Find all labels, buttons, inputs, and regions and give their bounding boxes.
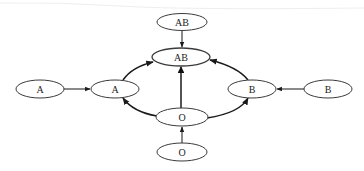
edge-b-inner-to-ab-center xyxy=(210,60,248,80)
node-a-inner: A xyxy=(91,80,139,98)
node-label: A xyxy=(36,84,44,95)
node-label: A xyxy=(111,84,119,95)
node-label: AB xyxy=(174,52,188,63)
node-label: O xyxy=(178,147,185,158)
node-a-outer: A xyxy=(16,80,64,98)
node-o-bottom: O xyxy=(157,143,207,161)
edge-o-center-to-b-inner xyxy=(207,98,248,118)
edge-o-center-to-a-inner xyxy=(123,98,157,116)
node-o-center: O xyxy=(156,108,208,126)
node-label: B xyxy=(249,84,256,95)
scan-artifact xyxy=(0,3,364,9)
node-b-inner: B xyxy=(228,80,276,98)
node-b-outer: B xyxy=(304,80,352,98)
node-ab-center: AB xyxy=(152,48,210,66)
node-label: O xyxy=(178,112,185,123)
edge-a-inner-to-ab-center xyxy=(123,62,153,80)
node-label: B xyxy=(325,84,332,95)
node-ab-top: AB xyxy=(157,14,207,31)
blood-type-diagram: AB AB A A B B O O xyxy=(0,0,364,171)
node-label: AB xyxy=(175,17,189,28)
